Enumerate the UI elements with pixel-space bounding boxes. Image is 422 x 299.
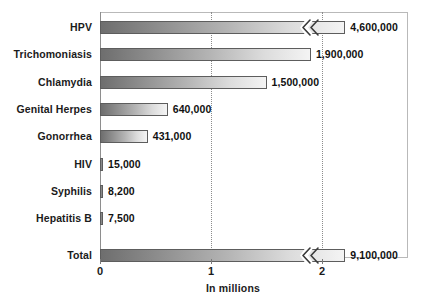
bar-row: Syphilis8,200 [0, 178, 422, 205]
category-label-genital-herpes: Genital Herpes [0, 96, 92, 123]
bar-value-total: 9,100,000 [350, 242, 398, 269]
bar-genital-herpes [100, 103, 168, 116]
category-label-hepatitis-b: Hepatitis B [0, 205, 92, 232]
bar-value-gonorrhea: 431,000 [153, 123, 192, 150]
x-tick-mark-0 [100, 259, 101, 264]
category-label-trichomoniasis: Trichomoniasis [0, 41, 92, 68]
bar-row: Trichomoniasis1,900,000 [0, 41, 422, 68]
bar-chart: HPV4,600,000Trichomoniasis1,900,000Chlam… [0, 0, 422, 299]
bar-row: Hepatitis B7,500 [0, 205, 422, 232]
bar-chlamydia [100, 76, 267, 89]
category-label-chlamydia: Chlamydia [0, 69, 92, 96]
category-label-hiv: HIV [0, 151, 92, 178]
bar-hiv [100, 158, 103, 171]
bar-syphilis [100, 185, 103, 198]
category-label-gonorrhea: Gonorrhea [0, 123, 92, 150]
bar-row: HIV15,000 [0, 151, 422, 178]
bar-value-genital-herpes: 640,000 [173, 96, 212, 123]
bar-value-hiv: 15,000 [108, 151, 141, 178]
bar-row: Gonorrhea431,000 [0, 123, 422, 150]
bar-hpv [100, 21, 345, 34]
bar-gonorrhea [100, 130, 148, 143]
category-label-hpv: HPV [0, 14, 92, 41]
bar-total [100, 249, 345, 262]
bar-value-trichomoniasis: 1,900,000 [316, 41, 364, 68]
bar-value-syphilis: 8,200 [108, 178, 135, 205]
x-tick-label-0: 0 [80, 265, 120, 277]
bar-hepatitis-b [100, 212, 103, 225]
bar-trichomoniasis [100, 48, 311, 61]
category-label-syphilis: Syphilis [0, 178, 92, 205]
category-label-total: Total [0, 242, 92, 269]
x-axis-title-label: In millions [206, 282, 260, 294]
x-tick-label-1: 1 [191, 265, 231, 277]
bar-value-chlamydia: 1,500,000 [272, 69, 320, 96]
bar-row: Chlamydia1,500,000 [0, 69, 422, 96]
bar-value-hepatitis-b: 7,500 [108, 205, 135, 232]
bar-row: Genital Herpes640,000 [0, 96, 422, 123]
x-axis-title: In millions [0, 282, 422, 294]
x-tick-mark-2 [322, 259, 323, 264]
x-tick-label-2: 2 [302, 265, 342, 277]
x-tick-mark-1 [211, 259, 212, 264]
bar-row: HPV4,600,000 [0, 14, 422, 41]
bar-value-hpv: 4,600,000 [350, 14, 398, 41]
